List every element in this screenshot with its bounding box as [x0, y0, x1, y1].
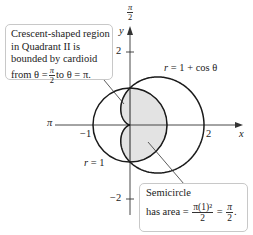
- x-tick-label-2: 2: [206, 128, 211, 139]
- callout-line: Crescent-shaped region: [11, 28, 112, 41]
- y-axis-label: y: [119, 25, 124, 36]
- cardioid-equation-label: r = 1 + cos θ: [164, 62, 217, 73]
- pi-over-2-label: π2: [126, 3, 134, 22]
- unit-circle-equation-label: r = 1: [84, 157, 105, 168]
- semicircle-callout: Semicircle has area = π(1)²2 = π2.: [139, 183, 248, 232]
- y-axis-arrow: [127, 26, 133, 35]
- callout-line: Semicircle: [146, 187, 247, 200]
- callout-line: from θ =π2to θ = π.: [11, 66, 112, 85]
- callout-line: in Quadrant II is: [11, 41, 112, 54]
- y-tick-label-2: 2: [116, 45, 121, 56]
- x-tick-label-neg1: −1: [80, 128, 91, 139]
- crescent-callout: Crescent-shaped region in Quadrant II is…: [5, 24, 113, 80]
- callout-line: bounded by cardioid: [11, 53, 112, 66]
- y-tick-label-neg2: −2: [110, 192, 121, 203]
- callout-line: has area = π(1)²2 = π2.: [146, 202, 247, 223]
- pi-axis-label: π: [47, 117, 52, 128]
- x-axis-label: x: [239, 128, 244, 139]
- semicircle-leader-line: [148, 142, 184, 184]
